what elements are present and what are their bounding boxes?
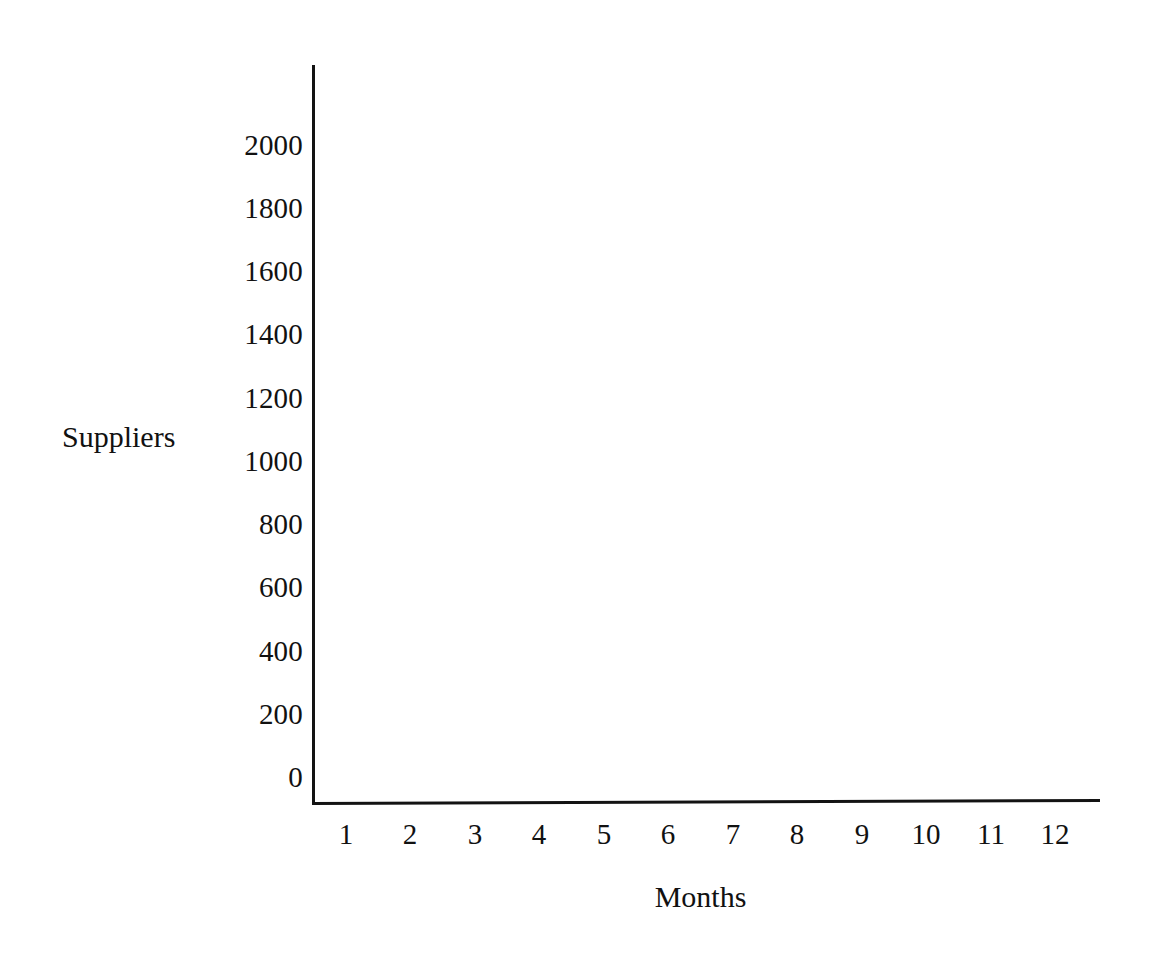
x-tick-label: 11	[956, 820, 1026, 849]
x-tick-label: 10	[891, 820, 961, 849]
x-tick-label: 4	[504, 820, 574, 849]
y-axis-title: Suppliers	[62, 422, 175, 452]
x-axis-title: Months	[0, 882, 1153, 912]
x-tick-label: 1	[311, 820, 381, 849]
x-tick-label: 2	[375, 820, 445, 849]
x-tick-label: 6	[633, 820, 703, 849]
x-axis-tick-labels: 1 2 3 4 5 6 7 8 9 10 11 12	[0, 0, 1153, 966]
x-tick-label: 5	[569, 820, 639, 849]
x-axis-title-text: Months	[655, 882, 747, 912]
x-tick-label: 7	[698, 820, 768, 849]
x-tick-label: 8	[762, 820, 832, 849]
x-tick-label: 9	[827, 820, 897, 849]
x-tick-label: 3	[440, 820, 510, 849]
x-tick-label: 12	[1020, 820, 1090, 849]
chart-page: 2000 1800 1600 1400 1200 1000 800 600 40…	[0, 0, 1153, 966]
